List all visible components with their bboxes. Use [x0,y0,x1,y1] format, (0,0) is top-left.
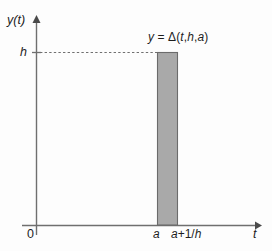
function-annotation: y = Δ(t,h,a) [148,31,208,43]
function-equals: = [154,30,168,44]
impulse-function-figure: y(t) t 0 h a a+1/h y = Δ(t,h,a) [0,0,272,251]
impulse-rectangle [158,53,178,226]
pulse-end-label: a+1/h [171,228,201,240]
function-delta: Δ( [168,30,180,44]
pulse-end-label-a: a [171,227,178,241]
pulse-start-label: a [153,228,160,240]
y-axis-label: y(t) [7,14,25,27]
function-arg-h: h [187,30,194,44]
function-close-paren: ) [204,30,208,44]
y-axis-arrowhead [33,15,41,23]
x-axis-label: t [253,228,256,241]
pulse-end-label-suffix: +1/ [178,227,195,241]
origin-label: 0 [27,228,34,241]
height-tick-label: h [20,46,27,59]
plot-canvas [0,0,272,251]
pulse-end-label-h: h [195,227,202,241]
